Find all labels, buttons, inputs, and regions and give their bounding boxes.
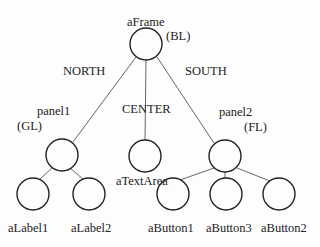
node-abutton2 [263,178,295,210]
edge-label-north: NORTH [63,65,105,78]
node-label-panel1: panel1 [37,105,70,118]
node-label-abutton3: aButton3 [206,222,252,235]
node-label-panel2: panel2 [219,106,252,119]
node-panel1 [46,139,78,171]
layout-label-panel2: (FL) [244,121,267,134]
node-abutton3 [210,178,242,210]
edge-panel2-abutton2 [237,168,270,181]
node-aframe [130,28,162,60]
node-label-alabel1: aLabel1 [8,222,48,235]
tree-diagram [0,0,320,247]
node-label-abutton1: aButton1 [148,222,194,235]
node-atextarea [129,140,161,172]
edge-panel1-alabel1 [39,167,53,180]
edge-label-center: CENTER [122,103,171,116]
edge-aframe-atextarea [145,60,146,140]
edge-panel2-abutton1 [180,168,214,180]
node-alabel1 [17,178,49,210]
node-label-alabel2: aLabel2 [71,222,111,235]
node-label-atextarea: aTextArea [116,175,168,188]
node-label-aframe: aFrame [127,16,164,29]
node-alabel2 [73,178,105,210]
node-label-abutton2: aButton2 [261,222,307,235]
layout-label-aframe: (BL) [166,30,190,43]
edge-label-south: SOUTH [185,65,227,78]
node-panel2 [209,140,241,172]
edge-panel1-alabel2 [70,168,84,180]
layout-label-panel1: (GL) [17,120,42,133]
